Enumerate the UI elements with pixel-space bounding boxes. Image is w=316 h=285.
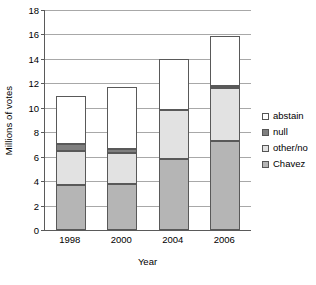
y-axis-tick-labels: 024681012141618 [16,0,39,240]
bar-segment-other-no[interactable] [56,151,86,185]
legend-item[interactable]: other/no [262,140,316,156]
y-tick-label: 18 [28,5,39,16]
legend-swatch-icon [262,129,269,136]
y-tick-label: 14 [28,53,39,64]
bar-group[interactable] [107,87,137,230]
y-tick-label: 12 [28,78,39,89]
plot-inner [45,10,251,230]
bar-segment-null[interactable] [210,86,240,88]
legend-label: null [273,127,288,137]
y-tick-label: 2 [34,200,39,211]
bar-segment-abstain[interactable] [159,59,189,110]
legend-label: abstain [273,111,304,121]
y-tick-label: 8 [34,127,39,138]
x-axis-tick-labels: 1998200020042006 [44,234,251,250]
y-axis-tickmark [41,157,45,158]
y-axis-tickmark [41,10,45,11]
x-tick-label: 1998 [59,234,80,245]
y-tick-label: 6 [34,151,39,162]
y-axis-tickmark [41,206,45,207]
bar-segment-other-no[interactable] [159,110,189,159]
legend-item[interactable]: Chavez [262,156,316,172]
x-tick-label: 2004 [162,234,183,245]
x-axis-title: Year [44,256,251,267]
bar-group[interactable] [56,96,86,230]
bar-segment-other-no[interactable] [107,153,137,184]
legend-swatch-icon [262,161,269,168]
legend-item[interactable]: abstain [262,108,316,124]
y-tick-label: 0 [34,225,39,236]
chart-legend: abstainnullother/noChavez [262,108,316,172]
plot-area [44,10,251,231]
bar-group[interactable] [210,36,240,230]
y-axis-tickmark [41,59,45,60]
x-tick-label: 2006 [214,234,235,245]
bar-segment-abstain[interactable] [107,87,137,149]
legend-swatch-icon [262,145,269,152]
bar-segment-other-no[interactable] [210,88,240,141]
bar-segment-chavez[interactable] [56,185,86,230]
gridline [45,10,251,11]
bar-segment-null[interactable] [107,149,137,153]
y-axis-tickmark [41,108,45,109]
bar-segment-chavez[interactable] [107,184,137,230]
y-axis-tickmark [41,34,45,35]
y-axis-tickmark [41,132,45,133]
legend-label: Chavez [273,159,305,169]
bar-segment-abstain[interactable] [210,36,240,86]
bar-segment-chavez[interactable] [159,159,189,230]
y-axis-tickmark [41,230,45,231]
bar-segment-null[interactable] [56,144,86,150]
y-axis-tickmark [41,181,45,182]
y-axis-tickmark [41,83,45,84]
y-axis-title-text: Millions of votes [4,85,15,154]
bar-segment-abstain[interactable] [56,96,86,145]
y-tick-label: 10 [28,102,39,113]
y-tick-label: 4 [34,176,39,187]
y-tick-label: 16 [28,29,39,40]
bar-group[interactable] [159,59,189,230]
legend-item[interactable]: null [262,124,316,140]
stacked-bar-chart: Millions of votes 024681012141618 199820… [0,0,316,285]
x-tick-label: 2000 [111,234,132,245]
bar-segment-chavez[interactable] [210,141,240,230]
legend-swatch-icon [262,113,269,120]
legend-label: other/no [273,143,308,153]
